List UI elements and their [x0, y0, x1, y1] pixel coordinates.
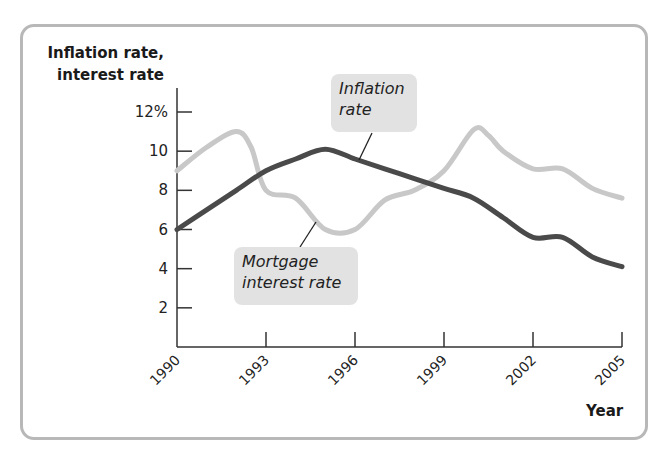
- callout-inflation-rate: Inflation rate: [331, 74, 417, 132]
- y-tick-label: 2: [158, 299, 168, 317]
- line-chart: 24681012%199019931996199920022005: [0, 0, 656, 468]
- x-tick-label: 1993: [236, 352, 273, 389]
- callout-mortgage-rate: Mortgage interest rate: [234, 247, 358, 305]
- x-tick-label: 1996: [325, 352, 362, 389]
- callout-inflation-line2: rate: [339, 99, 409, 120]
- y-tick-label: 12%: [135, 103, 168, 121]
- leader-line-mortgage: [300, 222, 316, 247]
- y-tick-label: 8: [158, 181, 168, 199]
- leader-line-inflation: [359, 133, 372, 160]
- y-tick-label: 4: [158, 260, 168, 278]
- y-tick-label: 10: [149, 142, 168, 160]
- series-line-mortgage-interest-rate: [177, 128, 622, 234]
- callout-mortgage-line1: Mortgage: [242, 251, 350, 272]
- x-tick-label: 1999: [414, 352, 451, 389]
- x-axis-label: Year: [586, 402, 623, 420]
- x-tick-label: 1990: [147, 352, 184, 389]
- callout-inflation-line1: Inflation: [339, 78, 409, 99]
- y-tick-label: 6: [158, 221, 168, 239]
- x-tick-label: 2005: [592, 352, 629, 389]
- x-tick-label: 2002: [503, 352, 540, 389]
- callout-mortgage-line2: interest rate: [242, 272, 350, 293]
